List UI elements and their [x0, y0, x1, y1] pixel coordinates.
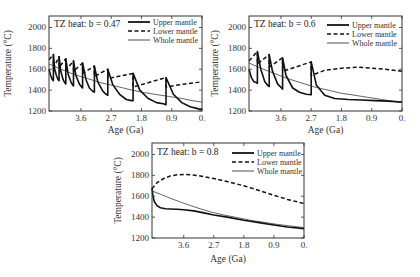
- y-tick-label: 2000: [28, 22, 47, 32]
- x-tick-label: 0.9: [268, 240, 280, 250]
- y-tick-label: 1800: [131, 170, 150, 180]
- x-tick-label: 0.9: [366, 113, 378, 123]
- y-tick-label: 2000: [131, 149, 150, 159]
- panel-title: TZ heat: b = 0.8: [157, 147, 219, 157]
- y-tick-label: 1800: [228, 43, 247, 53]
- x-tick-label: 3.6: [178, 240, 190, 250]
- legend-label-whole-mantle: Whole mantle: [352, 39, 398, 48]
- series-upper-mantle: [152, 188, 304, 229]
- legend: Upper mantle Lower mantle Whole mantle: [232, 149, 303, 176]
- x-tick-label: 2.7: [306, 113, 318, 123]
- legend-label-whole-mantle: Whole mantle: [257, 167, 303, 176]
- chart-panel-b08: 120014001600180020003.62.71.80.90. TZ he…: [113, 143, 307, 265]
- x-tick-label: 3.6: [75, 113, 87, 123]
- y-tick-label: 1600: [131, 191, 150, 201]
- legend: Upper mantle Lower mantle Whole mantle: [327, 21, 398, 48]
- x-axis-label: Age (Ga): [308, 125, 344, 136]
- x-axis-label: Age (Ga): [210, 254, 246, 265]
- series-upper-mantle: [249, 52, 402, 103]
- chart-panel-b06: 120014001600180020003.62.71.80.90. TZ he…: [210, 16, 405, 136]
- x-tick-label: 1.8: [336, 113, 348, 123]
- legend: Upper mantle Lower mantle Whole mantle: [128, 18, 199, 45]
- panel-title: TZ heat: b = 0.6: [254, 19, 316, 29]
- y-axis-label: Temperature (°C): [210, 30, 221, 97]
- y-tick-label: 1600: [228, 64, 247, 74]
- y-tick-label: 1800: [28, 43, 47, 53]
- legend-label-upper-mantle: Upper mantle: [153, 18, 197, 27]
- y-tick-label: 1400: [28, 85, 47, 95]
- y-tick-label: 2000: [228, 22, 247, 32]
- x-tick-label: 2.7: [106, 113, 118, 123]
- legend-label-lower-mantle: Lower mantle: [257, 158, 302, 167]
- x-tick-label: 0.: [301, 240, 308, 250]
- panel-title: TZ heat: b = 0.47: [54, 19, 121, 29]
- y-axis-label: Temperature (°C): [3, 30, 14, 97]
- y-tick-label: 1200: [228, 106, 247, 116]
- series-upper-mantle: [49, 55, 202, 110]
- legend-label-whole-mantle: Whole mantle: [153, 36, 199, 45]
- chart-panel-b047: 120014001600180020003.62.71.80.90. TZ he…: [3, 16, 205, 136]
- y-axis-label: Temperature (°C): [113, 157, 124, 224]
- legend-label-lower-mantle: Lower mantle: [153, 27, 198, 36]
- x-tick-label: 3.6: [275, 113, 287, 123]
- x-tick-label: 0.: [399, 113, 406, 123]
- x-tick-label: 0.: [199, 113, 206, 123]
- y-tick-label: 1200: [28, 106, 47, 116]
- y-tick-label: 1600: [28, 64, 47, 74]
- figure: 120014001600180020003.62.71.80.90. TZ he…: [0, 0, 420, 277]
- x-tick-label: 2.7: [208, 240, 220, 250]
- legend-label-lower-mantle: Lower mantle: [352, 30, 397, 39]
- y-tick-label: 1400: [131, 212, 150, 222]
- x-tick-label: 1.8: [238, 240, 250, 250]
- legend-label-upper-mantle: Upper mantle: [352, 21, 396, 30]
- y-tick-label: 1200: [131, 233, 150, 243]
- y-tick-label: 1400: [228, 85, 247, 95]
- legend-label-upper-mantle: Upper mantle: [257, 149, 301, 158]
- x-tick-label: 1.8: [136, 113, 148, 123]
- x-tick-label: 0.9: [166, 113, 178, 123]
- x-axis-label: Age (Ga): [108, 125, 144, 136]
- series-lower-mantle: [152, 175, 304, 204]
